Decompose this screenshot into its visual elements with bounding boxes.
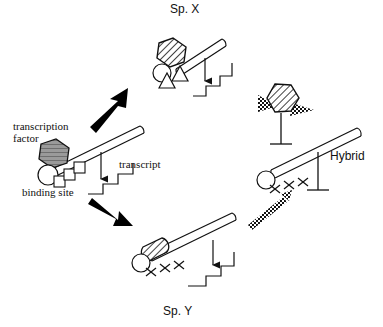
transcription-factor-label-line2: factor — [13, 132, 39, 144]
species-y-label: Sp. Y — [163, 304, 192, 318]
transcription-factor-hybrid-diagram: transcription factor binding site transc… — [0, 0, 383, 327]
transcript-label: transcript — [119, 158, 161, 170]
binding-site-square-2 — [64, 169, 75, 180]
species-x-label: Sp. X — [170, 2, 199, 16]
binding-site-square-3 — [74, 162, 85, 173]
transcription-factor-label-line1: transcription — [13, 120, 69, 132]
hybrid-label: Hybrid — [330, 149, 365, 163]
binding-site-label: binding site — [22, 186, 74, 198]
